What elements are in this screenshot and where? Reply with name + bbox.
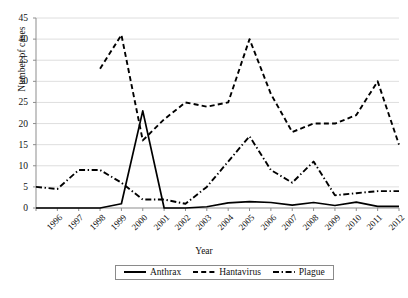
chart-figure: Number of cases 051015202530354045 19961… bbox=[0, 0, 408, 298]
chart-legend: AnthraxHantavirusPlague bbox=[115, 265, 334, 280]
y-axis-tick-label: 15 bbox=[2, 140, 28, 150]
legend-item-anthrax[interactable]: Anthrax bbox=[124, 267, 181, 278]
legend-swatch-solid-icon bbox=[124, 268, 146, 276]
y-axis-tick-label: 0 bbox=[2, 203, 28, 213]
y-axis-tick-label: 30 bbox=[2, 76, 28, 86]
legend-label: Plague bbox=[299, 267, 325, 278]
y-axis-tick-label: 45 bbox=[2, 13, 28, 23]
legend-item-plague[interactable]: Plague bbox=[273, 267, 325, 278]
series-line-hantavirus bbox=[100, 35, 399, 145]
y-axis-tick-label: 25 bbox=[2, 97, 28, 107]
legend-swatch-dashed-icon bbox=[193, 268, 215, 276]
legend-label: Anthrax bbox=[150, 267, 181, 278]
y-axis-tick-label: 5 bbox=[2, 182, 28, 192]
legend-swatch-dashdot-icon bbox=[273, 268, 295, 276]
legend-label: Hantavirus bbox=[219, 267, 261, 278]
y-axis-tick-label: 35 bbox=[2, 55, 28, 65]
x-axis-title: Year bbox=[0, 246, 408, 256]
y-axis-tick-label: 40 bbox=[2, 34, 28, 44]
y-axis-tick-label: 10 bbox=[2, 161, 28, 171]
legend-item-hantavirus[interactable]: Hantavirus bbox=[193, 267, 261, 278]
y-axis-tick-label: 20 bbox=[2, 119, 28, 129]
series-line-plague bbox=[36, 136, 399, 204]
